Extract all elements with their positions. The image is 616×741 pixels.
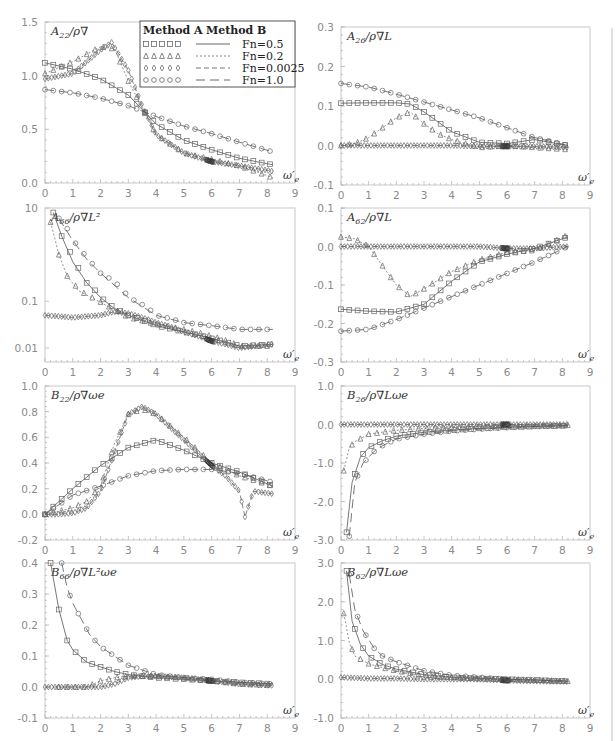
y-tick-label: 0.0 — [317, 241, 334, 253]
series-fn-0-5 — [344, 423, 568, 534]
method-a-markers — [339, 245, 568, 333]
x-tick-label: 9 — [587, 189, 594, 201]
x-tick-label: 1 — [69, 722, 76, 734]
x-tick-label: 8 — [559, 189, 566, 201]
chart-panel-a26: 0123456789-0.10.00.10.20.3A26/ρ∇Lω′e — [314, 21, 595, 201]
x-tick-label: 5 — [476, 544, 483, 556]
series-fn-0-5 — [339, 100, 568, 147]
y-tick-label: -3.0 — [314, 534, 335, 546]
y-tick-label: 10 — [25, 202, 38, 214]
x-tick-label: 6 — [504, 544, 511, 556]
x-axis-label: ω′e — [283, 348, 299, 363]
x-tick-label: 1 — [69, 366, 76, 378]
x-tick-label: 3 — [125, 722, 132, 734]
y-tick-label: 0.8 — [21, 406, 38, 418]
y-tick-label: 0.3 — [21, 588, 38, 600]
series-fn-0-2 — [341, 610, 570, 683]
chart-panel-b26: 0123456789-3.0-2.0-1.00.01.0B26/ρ∇Lωeω′e — [314, 380, 595, 556]
y-tick-label: 0.6 — [21, 431, 38, 443]
x-tick-label: 2 — [393, 544, 400, 556]
x-tick-label: 8 — [559, 722, 566, 734]
chart-panel-a66: 01234567890.010.110A66/ρ∇L²ω′e — [15, 202, 300, 378]
method-b-line — [45, 409, 273, 514]
x-tick-label: 2 — [97, 722, 104, 734]
x-tick-label: 4 — [153, 722, 160, 734]
y-tick-label: 0.4 — [21, 457, 38, 469]
x-axis-label: ω′e — [283, 526, 299, 541]
x-tick-label: 5 — [181, 366, 188, 378]
panel-title: B26/ρ∇Lωe — [346, 388, 408, 404]
y-tick-label: -0.1 — [314, 179, 335, 191]
x-tick-label: 6 — [504, 722, 511, 734]
panel-title: A22/ρ∇ — [50, 24, 88, 40]
series-fn-1-0 — [43, 87, 273, 153]
method-a-markers — [59, 561, 272, 687]
x-tick-label: 0 — [42, 722, 49, 734]
method-a-markers — [56, 216, 269, 332]
x-tick-label: 2 — [97, 544, 104, 556]
x-tick-label: 8 — [264, 722, 271, 734]
x-tick-label: 6 — [208, 187, 215, 199]
x-axis-label: ω′e — [578, 526, 594, 541]
x-tick-label: 2 — [393, 189, 400, 201]
y-tick-label: -1.0 — [314, 712, 335, 724]
y-tick-label: 0.0 — [21, 681, 38, 693]
x-tick-label: 8 — [559, 544, 566, 556]
method-a-markers — [43, 404, 273, 520]
series-fn-1-0 — [59, 561, 273, 687]
y-tick-label: 0.01 — [15, 342, 38, 354]
chart-panel-b62: 0123456789-1.00.01.02.03.0B62/ρ∇Lωeω′e — [314, 557, 595, 734]
legend-header-method-b: Method B — [206, 24, 266, 37]
x-tick-label: 0 — [338, 544, 345, 556]
x-tick-label: 9 — [292, 722, 299, 734]
x-tick-label: 9 — [292, 187, 299, 199]
y-tick-label: 0.2 — [21, 483, 38, 495]
x-tick-label: 0 — [338, 189, 345, 201]
series-fn-1-0 — [339, 245, 568, 333]
method-a-markers — [347, 423, 568, 538]
x-tick-label: 4 — [153, 187, 160, 199]
x-tick-label: 6 — [208, 366, 215, 378]
x-tick-label: 7 — [531, 722, 538, 734]
x-axis-label: ω′e — [578, 348, 594, 363]
y-tick-label: 1.0 — [317, 635, 334, 647]
x-tick-label: 2 — [97, 187, 104, 199]
chart-panel-b22: 0123456789-0.20.00.20.40.60.81.0B22/ρ∇ωe… — [18, 380, 300, 556]
panel-title: A62/ρ∇L — [346, 210, 392, 226]
x-tick-label: 2 — [97, 366, 104, 378]
y-tick-label: -0.2 — [18, 534, 39, 546]
legend: Method A Method B Fn=0.5Fn=0.2Fn=0.0025F… — [140, 21, 304, 87]
x-tick-label: 3 — [125, 544, 132, 556]
x-tick-label: 8 — [264, 366, 271, 378]
plot-frame — [45, 386, 295, 540]
y-tick-label: 1.5 — [21, 16, 38, 28]
x-tick-label: 7 — [236, 544, 243, 556]
x-tick-label: 7 — [236, 187, 243, 199]
series-fn-0-5 — [51, 210, 273, 348]
y-tick-label: -0.1 — [314, 279, 335, 291]
plot-frame — [341, 386, 590, 540]
x-tick-label: 6 — [208, 544, 215, 556]
series-fn-1-0 — [347, 423, 568, 538]
plot-frame — [341, 563, 590, 718]
x-axis-label: ω′e — [578, 171, 594, 186]
y-tick-label: 0.2 — [21, 619, 38, 631]
y-tick-label: -0.2 — [314, 318, 335, 330]
y-tick-label: 0.0 — [317, 673, 334, 685]
y-tick-label: 0.0 — [21, 177, 38, 189]
y-tick-label: 0.3 — [317, 21, 334, 33]
x-tick-label: 4 — [448, 189, 455, 201]
method-a-markers — [341, 610, 570, 683]
y-tick-label: 0.1 — [21, 295, 38, 307]
y-tick-label: 0.1 — [317, 100, 334, 112]
x-tick-label: 6 — [208, 722, 215, 734]
x-tick-label: 4 — [448, 722, 455, 734]
x-axis-label: ω′e — [578, 704, 594, 719]
panel-title: A26/ρ∇L — [346, 29, 392, 45]
panel-title: B22/ρ∇ωe — [50, 388, 105, 404]
x-tick-label: 0 — [42, 544, 49, 556]
x-axis-label: ω′e — [283, 169, 299, 184]
plot-frame — [45, 208, 295, 362]
x-tick-label: 6 — [504, 366, 511, 378]
x-tick-label: 0 — [338, 366, 345, 378]
